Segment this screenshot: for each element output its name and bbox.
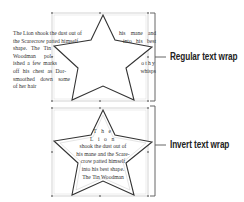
text-line: the Scarecrow patted himself xyxy=(13,38,76,46)
text-line: T h e xyxy=(66,128,140,136)
text-line: whisps xyxy=(119,68,156,76)
text-line: crow patted himself xyxy=(66,158,140,166)
text-line: shape. The Tin xyxy=(13,45,51,53)
text-line: The Lion shook the dust out of xyxy=(13,30,81,38)
text-line: his mane and xyxy=(119,30,156,38)
text-line: off his chest as Dor- xyxy=(13,68,66,76)
text-line: Woodman pol- xyxy=(13,53,53,61)
text-line: his mane and the Scare- xyxy=(66,151,140,159)
regular-text-wrap-label: Regular text wrap xyxy=(170,50,237,62)
regular-wrap-right-text: his mane and into his best othy whisps xyxy=(119,30,157,76)
text-line: shook the dust out of xyxy=(66,143,140,151)
text-line: ished a few marks xyxy=(13,60,57,68)
text-line: into his best shape. xyxy=(66,166,140,174)
invert-wrap-inner-text: T h e L i o n shook the dust out of his … xyxy=(66,128,140,181)
text-line: othy xyxy=(119,60,156,68)
regular-wrap-left-text: The Lion shook the dust out of the Scare… xyxy=(13,30,81,91)
text-wrap-diagram: The Lion shook the dust out of the Scare… xyxy=(0,0,244,202)
bracket-invert xyxy=(150,106,166,196)
text-line: smoothed down some xyxy=(13,76,70,84)
text-line: L i o n xyxy=(66,136,140,144)
text-line: of her hair xyxy=(13,83,43,91)
invert-text-wrap-label: Invert text wrap xyxy=(170,138,229,150)
text-line: into his best xyxy=(123,38,156,46)
text-line: The Tin Woodman xyxy=(66,174,140,182)
